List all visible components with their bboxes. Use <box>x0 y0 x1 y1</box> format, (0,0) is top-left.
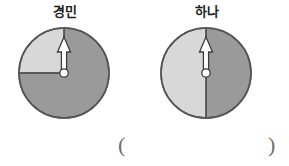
answer-row: ( ) <box>0 128 289 166</box>
spinner-group-2: 하나 <box>142 0 272 126</box>
spinner-2-light-sector <box>161 28 206 118</box>
spinner-2-svg <box>142 22 272 124</box>
answer-blank[interactable] <box>128 134 266 160</box>
spinner-2-dark-sector <box>206 28 251 118</box>
spinner-1-diagram <box>0 22 130 124</box>
spinner-2-label: 하나 <box>142 4 272 20</box>
answer-paren-close: ) <box>268 128 275 162</box>
spinner-2-pivot-dot <box>202 69 210 77</box>
answer-paren-open: ( <box>118 128 125 162</box>
spinner-2-diagram <box>142 22 272 124</box>
spinner-1-svg <box>0 22 130 124</box>
spinner-group-1: 경민 <box>0 0 130 126</box>
spinner-1-label: 경민 <box>0 4 130 20</box>
worksheet-figure: 경민 하나 <box>0 0 289 166</box>
spinner-1-pivot-dot <box>60 69 68 77</box>
